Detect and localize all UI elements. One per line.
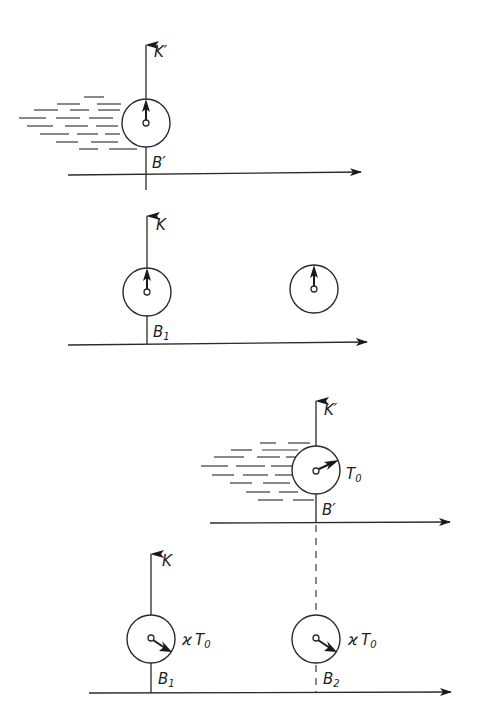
clock-reading-t0: T0 [346,465,362,484]
clock-b2-preview [290,265,338,313]
clock1-reading-kappa-t0: ϰT0 [181,631,211,650]
x-prime-axis-arrow [68,172,361,175]
clock-label-b1: B1 [158,670,175,689]
speed-lines-icon [19,97,137,149]
frame-label-k-prime: K′ [154,43,168,61]
clock-label-b1: B1 [153,323,170,342]
clock-b1-kappa-t0 [127,615,175,663]
clock2-reading-kappa-t0: ϰT0 [347,631,377,650]
clock-label-b2: B2 [323,670,340,689]
relativity-clock-diagram: K′ B′ K B1 [0,0,478,728]
clock-b-prime [122,99,170,147]
clock-b-prime-t0 [292,446,340,494]
x-axis-arrow [68,342,367,345]
frame-label-k-prime: K′ [324,401,338,419]
frame-label-k: K [162,552,173,570]
panel-c: K′ T0 B′ [201,401,450,523]
clock-b2-kappa-t0 [292,615,340,663]
panel-d: K ϰT0 ϰT0 B1 B2 [89,552,451,693]
clock-label-b-prime: B′ [152,154,166,172]
clock-b1 [123,268,171,316]
x-axis-arrow [89,692,451,693]
panel-a: K′ B′ [19,43,361,190]
x-prime-axis-arrow [210,522,450,523]
clock-label-b-prime: B′ [322,501,336,519]
frame-label-k: K [156,216,167,234]
panel-b: K B1 [68,216,367,345]
